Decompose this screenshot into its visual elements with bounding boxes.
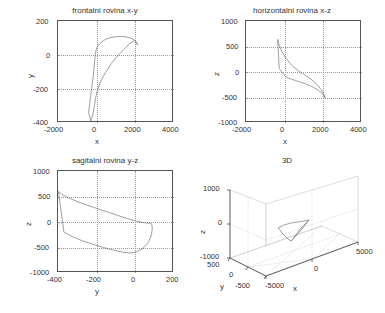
ztick-label-3d: 0: [218, 218, 222, 227]
ytick-label: 200: [166, 275, 179, 284]
xtick-label: 2000: [312, 125, 329, 134]
ytick-label: 200: [36, 17, 49, 26]
subplot-3d-title: 3D: [227, 156, 347, 165]
subplot-horizontal-axes: [245, 20, 361, 122]
subplot-horizontal: horizontalni rovina x-z 1000 500 0 -500 …: [192, 6, 385, 156]
subplot-sagittal: sagitalni rovina y-z 1000 500 0 -500 -10…: [0, 156, 192, 313]
ztick-label: 500: [226, 42, 239, 51]
ytick-label-3d: 0: [229, 270, 233, 279]
subplot-3d: 3D: [192, 156, 385, 313]
ztick-label: -500: [34, 243, 49, 252]
ztick-label-3d: 1000: [203, 184, 220, 193]
xtick-label: 0: [280, 125, 284, 134]
ytick-label-3d: -500: [235, 281, 250, 290]
ztick-label: 0: [47, 218, 51, 227]
subplot-frontal-xlabel: x: [95, 137, 99, 146]
xtick-label-3d: -5000: [265, 281, 284, 290]
ytick-label: 0: [131, 275, 135, 284]
subplot-3d-xlabel: x: [293, 284, 297, 293]
subplot-horizontal-xlabel: x: [283, 137, 287, 146]
xtick-label-3d: 0: [314, 264, 318, 273]
subplot-frontal-axes: [57, 20, 173, 122]
subplot-frontal: frontalni rovina x-y 200 0 -200 -400 -20…: [0, 6, 192, 156]
subplot-3d-ylabel: y: [220, 282, 224, 291]
ytick-label: -200: [33, 85, 48, 94]
xtick-label: 2000: [124, 125, 141, 134]
ytick-label-3d: 500: [207, 260, 220, 269]
subplot-horizontal-ylabel: z: [212, 72, 221, 76]
ztick-label: 500: [38, 192, 51, 201]
ztick-label: -500: [222, 93, 237, 102]
subplot-sagittal-xlabel: y: [95, 287, 99, 296]
ztick-label: 1000: [221, 17, 238, 26]
subplot-frontal-title: frontalni rovina x-y: [30, 6, 180, 15]
ytick-label: -400: [47, 275, 62, 284]
xtick-label: 0: [92, 125, 96, 134]
ztick-label: 0: [235, 68, 239, 77]
ztick-label: 1000: [33, 167, 50, 176]
trace-sagittal: [58, 171, 174, 273]
subplot-sagittal-title: sagitalni rovina y-z: [30, 156, 180, 165]
subplot-horizontal-title: horizontalni rovina x-z: [217, 6, 367, 15]
ytick-label: 0: [46, 51, 50, 60]
xtick-label: 4000: [350, 125, 367, 134]
subplot-sagittal-ylabel: z: [24, 222, 33, 226]
trace-frontal: [58, 21, 174, 123]
xtick-label: -2000: [232, 125, 251, 134]
trace-horizontal: [246, 21, 362, 123]
subplot-3d-zlabel: z: [198, 230, 207, 234]
xtick-label-3d: 5000: [356, 247, 373, 256]
subplot-sagittal-axes: [57, 170, 173, 272]
subplot-frontal-ylabel: y: [26, 74, 35, 78]
figure-canvas: frontalni rovina x-y 200 0 -200 -400 -20…: [0, 0, 385, 313]
xtick-label: 4000: [162, 125, 179, 134]
ytick-label: -200: [86, 275, 101, 284]
xtick-label: -2000: [44, 125, 63, 134]
